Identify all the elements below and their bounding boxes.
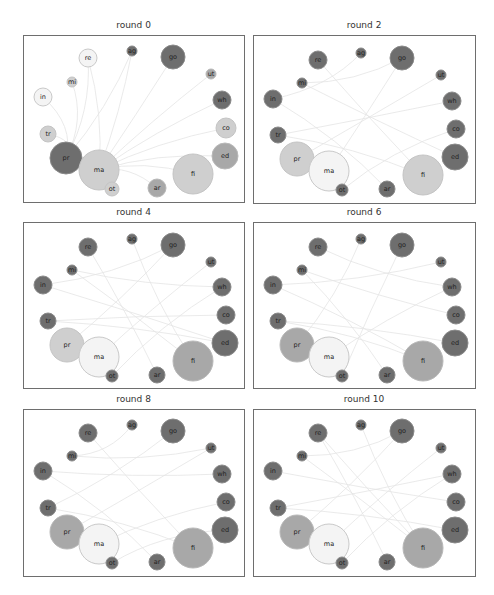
edge bbox=[278, 101, 452, 135]
node-label: ma bbox=[324, 167, 334, 175]
node-label: ar bbox=[154, 558, 161, 566]
node-label: mi bbox=[68, 452, 76, 460]
node-wh: wh bbox=[213, 465, 231, 483]
node-ot: ot bbox=[106, 370, 118, 382]
node-wh: wh bbox=[443, 278, 461, 296]
node-ut: ut bbox=[206, 257, 216, 267]
node-label: fi bbox=[191, 170, 195, 178]
node-label: ut bbox=[208, 258, 215, 266]
node-go: go bbox=[390, 46, 414, 70]
node-go: go bbox=[390, 419, 414, 443]
node-re: re bbox=[309, 424, 327, 442]
node-ag: ag bbox=[127, 46, 137, 56]
node-label: mi bbox=[68, 266, 76, 274]
node-label: ut bbox=[438, 444, 445, 452]
edge bbox=[67, 245, 173, 345]
node-label: ar bbox=[384, 371, 391, 379]
node-co: co bbox=[447, 493, 465, 511]
node-ar: ar bbox=[149, 367, 165, 383]
node-fi: fi bbox=[173, 341, 213, 381]
node-label: wh bbox=[447, 283, 456, 291]
node-ut: ut bbox=[436, 443, 446, 453]
node-label: co bbox=[222, 498, 230, 506]
node-label: tr bbox=[275, 131, 281, 139]
node-label: co bbox=[452, 311, 460, 319]
node-re: re bbox=[79, 424, 97, 442]
node-label: ma bbox=[94, 353, 104, 361]
node-label: re bbox=[315, 243, 322, 251]
network-graph: aggoreutmiinwhcotredprmafiotar bbox=[254, 223, 476, 389]
node-label: ar bbox=[384, 558, 391, 566]
node-re: re bbox=[79, 49, 97, 67]
node-label: pr bbox=[64, 528, 71, 536]
node-ag: ag bbox=[127, 234, 137, 244]
node-mi: mi bbox=[67, 451, 77, 461]
network-graph: aggoreutmiinwhcotredprmafiotar bbox=[254, 36, 476, 204]
node-label: in bbox=[270, 467, 276, 475]
node-label: go bbox=[169, 241, 177, 249]
node-label: pr bbox=[294, 528, 301, 536]
node-label: co bbox=[222, 311, 230, 319]
node-label: ed bbox=[221, 526, 229, 534]
node-mi: mi bbox=[297, 265, 307, 275]
node-ag: ag bbox=[356, 48, 366, 58]
node-label: co bbox=[452, 498, 460, 506]
node-label: ma bbox=[94, 540, 104, 548]
node-ed: ed bbox=[212, 517, 238, 543]
node-ed: ed bbox=[442, 330, 468, 356]
node-mi: mi bbox=[67, 265, 77, 275]
node-label: ag bbox=[128, 47, 136, 55]
node-ag: ag bbox=[127, 420, 137, 430]
edge bbox=[297, 431, 402, 532]
node-label: fi bbox=[191, 357, 195, 365]
edge bbox=[66, 51, 132, 158]
plot-frame: aggoreutmiinwhcotredprmafiotar bbox=[23, 409, 245, 577]
node-label: ag bbox=[357, 49, 365, 57]
network-graph: aggoreutmiinwhcotredprmafiotar bbox=[254, 410, 476, 577]
node-pr: pr bbox=[50, 142, 82, 174]
node-label: in bbox=[40, 281, 46, 289]
node-ut: ut bbox=[206, 69, 216, 79]
node-label: fi bbox=[421, 544, 425, 552]
node-wh: wh bbox=[213, 278, 231, 296]
node-label: ed bbox=[221, 339, 229, 347]
node-label: in bbox=[40, 93, 46, 101]
node-label: re bbox=[85, 54, 92, 62]
node-label: re bbox=[315, 429, 322, 437]
node-label: fi bbox=[421, 357, 425, 365]
node-label: go bbox=[398, 241, 406, 249]
node-ot: ot bbox=[105, 182, 119, 196]
node-go: go bbox=[161, 233, 185, 257]
node-label: ar bbox=[154, 184, 161, 192]
node-label: tr bbox=[275, 504, 281, 512]
node-label: ot bbox=[109, 559, 116, 567]
panel-title: round 0 bbox=[23, 20, 244, 30]
node-label: ar bbox=[384, 185, 391, 193]
plot-frame: aggoreutmiinwhcotredprmafiotar bbox=[23, 222, 245, 389]
node-label: go bbox=[169, 427, 177, 435]
network-graph: aggoreutmiinwhcotredprmafiotar bbox=[24, 36, 245, 203]
node-in: in bbox=[264, 462, 282, 480]
node-in: in bbox=[34, 276, 52, 294]
node-label: ma bbox=[324, 540, 334, 548]
edge bbox=[43, 471, 222, 476]
node-mi: mi bbox=[297, 451, 307, 461]
node-label: re bbox=[315, 56, 322, 64]
node-label: ot bbox=[109, 185, 116, 193]
node-label: ot bbox=[339, 559, 346, 567]
node-fi: fi bbox=[403, 341, 443, 381]
node-ot: ot bbox=[106, 557, 118, 569]
plot-frame: aggoreutmiinwhcotredprmafiotar bbox=[253, 222, 476, 389]
node-ed: ed bbox=[212, 143, 238, 169]
edge bbox=[302, 83, 455, 157]
node-re: re bbox=[79, 238, 97, 256]
node-label: ot bbox=[339, 186, 346, 194]
node-re: re bbox=[309, 51, 327, 69]
node-label: ut bbox=[438, 71, 445, 79]
node-in: in bbox=[34, 462, 52, 480]
node-label: mi bbox=[298, 266, 306, 274]
edge bbox=[72, 448, 211, 458]
node-label: in bbox=[270, 95, 276, 103]
panel-title: round 10 bbox=[253, 394, 475, 404]
node-co: co bbox=[217, 493, 235, 511]
